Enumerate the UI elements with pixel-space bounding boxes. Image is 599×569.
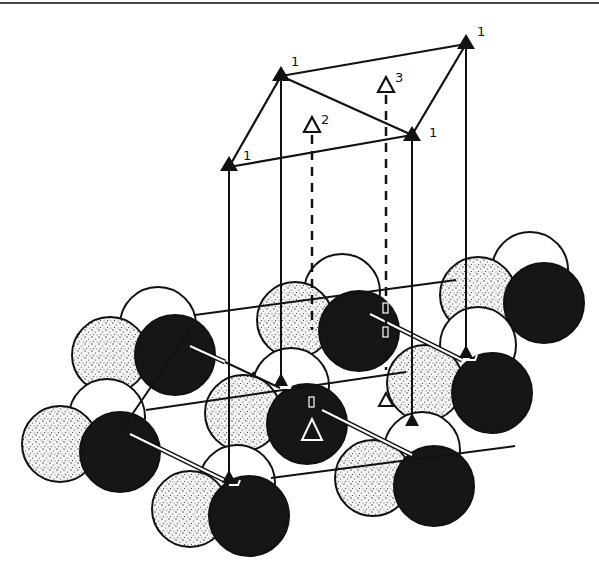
site-label: 1 bbox=[243, 148, 251, 163]
dark-atom bbox=[209, 476, 289, 556]
open-arrow-icon bbox=[378, 77, 394, 92]
hollow-site-arrows bbox=[304, 77, 394, 132]
dark-atom bbox=[135, 315, 215, 395]
site-label: 1 bbox=[477, 24, 485, 39]
site-labels: 1 1 1 1 2 3 bbox=[243, 24, 485, 163]
dark-atom bbox=[504, 263, 584, 343]
site-triangle-icon bbox=[272, 66, 290, 81]
site-triangle-icon bbox=[457, 34, 475, 49]
site-label: 1 bbox=[291, 54, 299, 69]
site-label: 1 bbox=[429, 125, 437, 140]
open-arrow-icon bbox=[304, 117, 320, 132]
dark-atom bbox=[267, 384, 347, 464]
dark-atom bbox=[452, 353, 532, 433]
dark-atom bbox=[394, 446, 474, 526]
site-triangle-icon bbox=[403, 126, 421, 141]
lattice-diagram: 1 1 1 1 2 3 bbox=[0, 0, 599, 569]
site-markers-top bbox=[220, 34, 475, 171]
atom-layer bbox=[22, 232, 584, 556]
dark-atom bbox=[80, 412, 160, 492]
site-label: 3 bbox=[395, 70, 403, 85]
upper-lattice bbox=[229, 44, 466, 167]
site-triangle-icon bbox=[220, 156, 238, 171]
site-label: 2 bbox=[321, 112, 329, 127]
